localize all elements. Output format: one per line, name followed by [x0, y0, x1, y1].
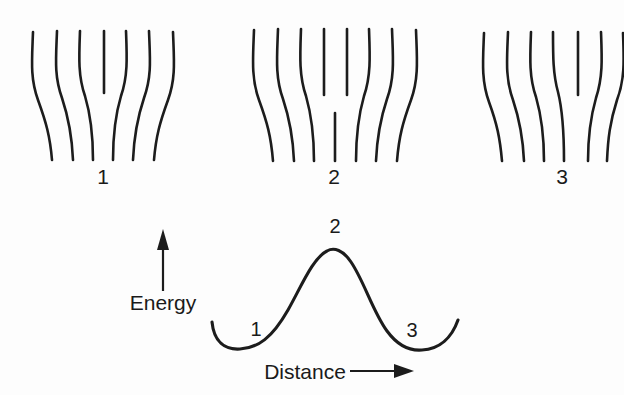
- distance-axis-arrow: [350, 364, 414, 378]
- figure-canvas: 1 2 3: [0, 0, 624, 395]
- lattice-line: [300, 29, 314, 161]
- lattice-line: [397, 30, 417, 161]
- lattice-line: [356, 29, 370, 161]
- energy-plot: Energy Distance 1 2 3: [130, 215, 458, 383]
- lattice-line: [253, 30, 273, 161]
- lattice-line: [507, 32, 524, 161]
- lattice-line: [530, 32, 544, 161]
- lattice-line: [376, 29, 393, 161]
- lattice-line: [56, 31, 73, 160]
- panel-label-1: 1: [97, 165, 109, 188]
- lattice-line: [79, 31, 93, 160]
- lattice-line: [32, 32, 52, 160]
- energy-marker-2: 2: [329, 215, 340, 237]
- lattice-line: [133, 31, 150, 160]
- lattice-line: [607, 33, 624, 161]
- lattice-line: [154, 32, 174, 160]
- panel-label-2: 2: [328, 165, 340, 188]
- energy-marker-1: 1: [250, 318, 261, 340]
- lattice-line: [277, 29, 294, 161]
- lattice-panel-3: 3: [483, 32, 624, 188]
- energy-axis-arrow: [157, 229, 169, 291]
- lattice-line: [588, 32, 602, 161]
- distance-axis-label: Distance: [264, 360, 346, 383]
- lattice-line: [113, 31, 127, 160]
- energy-axis-label: Energy: [130, 291, 197, 314]
- panel-label-3: 3: [556, 165, 568, 188]
- energy-barrier-curve: [212, 249, 458, 350]
- lattice-panel-2: 2: [253, 29, 417, 188]
- arrow-right-icon: [394, 364, 414, 378]
- energy-marker-3: 3: [406, 319, 417, 341]
- lattice-line: [553, 32, 564, 161]
- arrow-up-icon: [157, 229, 169, 250]
- lattice-line: [483, 33, 502, 161]
- dislocation-glide-figure: 1 2 3: [0, 0, 624, 395]
- lattice-panel-1: 1: [32, 31, 174, 188]
